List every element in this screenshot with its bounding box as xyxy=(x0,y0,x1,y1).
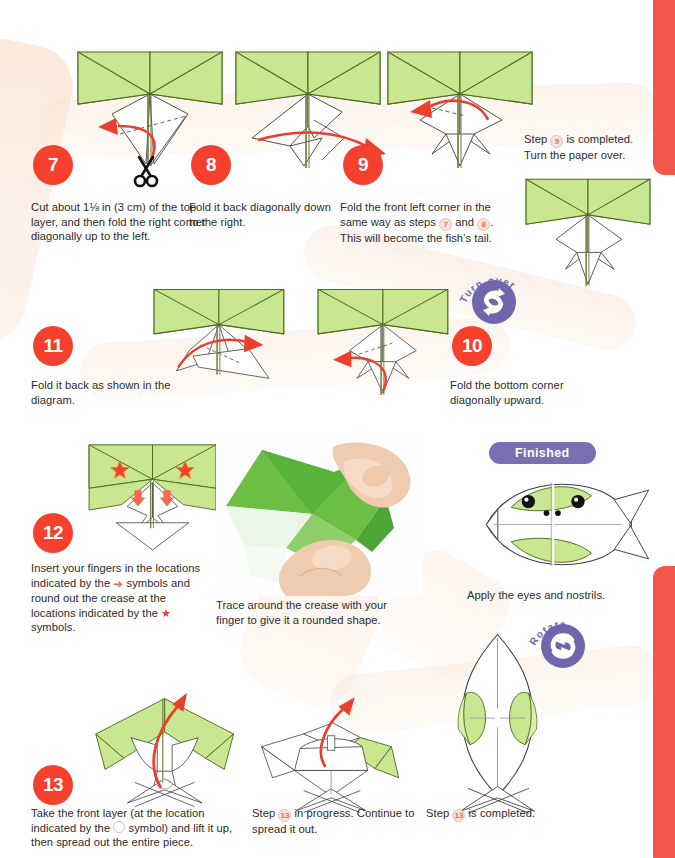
fish-nostril-right xyxy=(555,510,561,516)
step-10-caption: Fold the bottom corner diagonally upward… xyxy=(450,378,610,407)
finished-fish-diagram xyxy=(452,467,662,582)
scissors-icon xyxy=(132,154,160,188)
fish-nostril-left xyxy=(544,510,550,516)
step-13-progress-diagram xyxy=(252,690,412,818)
note-text-a: Step xyxy=(524,133,547,145)
step-12-text-c: symbols. xyxy=(31,621,76,633)
step-badge-7: 7 xyxy=(33,145,73,185)
step-12-caption: Insert your fingers in the locations ind… xyxy=(31,561,211,635)
finger-arrow-icon: ➜ xyxy=(113,577,123,591)
inline-step-badge-8: 8 xyxy=(477,218,490,231)
step-9-caption: Fold the front left corner in the same w… xyxy=(340,200,504,245)
progress-text-b: in progress. Continue to spread it out. xyxy=(252,807,415,835)
grab-point-circle-icon xyxy=(113,821,125,833)
step-9-caption-text-b: and xyxy=(452,216,477,228)
progress-text-a: Step xyxy=(252,807,275,819)
step-13-caption: Take the front layer (at the location in… xyxy=(31,806,246,850)
note-text-c: Turn the paper over. xyxy=(524,149,625,161)
turn-over-marker: Turn over xyxy=(458,262,530,334)
turn-over-icon xyxy=(472,280,516,324)
completed-text-b: is completed. xyxy=(469,807,536,819)
step-11-caption: Fold it back as shown in the diagram. xyxy=(31,378,181,407)
step-9-diagram xyxy=(370,42,550,182)
fish-eye-left xyxy=(522,495,535,508)
index-tab-bottom xyxy=(653,566,675,858)
step-badge-12: 12 xyxy=(33,513,73,553)
inline-step-badge-13: 13 xyxy=(278,809,291,822)
star-icon: ★ xyxy=(161,607,171,619)
step-badge-10: 10 xyxy=(452,326,492,366)
photo-caption: Trace around the crease with your finger… xyxy=(216,598,406,627)
step-badge-8: 8 xyxy=(191,145,231,185)
finished-caption: Apply the eyes and nostrils. xyxy=(467,588,667,603)
rotate-icon xyxy=(541,624,585,668)
hands-folding-photo xyxy=(216,436,423,596)
step-badge-9: 9 xyxy=(343,145,383,185)
origami-instruction-page: 7 Cut about 1⅛ in (3 cm) of the top laye… xyxy=(0,0,675,858)
step-badge-13: 13 xyxy=(33,765,73,805)
step-badge-11: 11 xyxy=(33,326,73,366)
fish-eye-right xyxy=(571,495,584,508)
step-9-completed-note: Step 9 is completed. Turn the paper over… xyxy=(524,132,674,163)
note-text-b: is completed. xyxy=(567,133,634,145)
step-12-diagram xyxy=(80,436,225,566)
step-10-diagram xyxy=(302,282,462,407)
step-9-result-diagram xyxy=(513,168,663,303)
inline-step-badge-13-done: 13 xyxy=(452,809,465,822)
step-13-diagram xyxy=(78,680,243,815)
inline-step-badge-7: 7 xyxy=(439,218,452,231)
finished-badge: Finished xyxy=(489,442,596,464)
step-13-progress-caption: Step 13 in progress. Continue to spread … xyxy=(252,806,422,837)
completed-text-a: Step xyxy=(426,807,449,819)
inline-step-badge-9: 9 xyxy=(550,135,563,148)
step-13-completed-caption: Step 13 is completed. xyxy=(426,806,606,822)
step-8-caption: Fold it back diagonally down to the righ… xyxy=(189,200,339,229)
rotate-marker: Rotate xyxy=(527,606,599,678)
